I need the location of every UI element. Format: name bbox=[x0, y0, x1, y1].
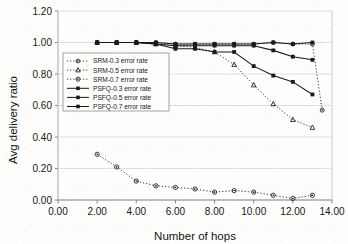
data-point bbox=[193, 47, 197, 51]
legend-label: SRM-0.5 error rate bbox=[93, 67, 148, 74]
x-tick-label: 0.00 bbox=[48, 206, 68, 217]
data-point bbox=[252, 44, 256, 48]
legend-label: PSFQ-0.3 error rate bbox=[93, 85, 152, 93]
data-point-center bbox=[292, 198, 294, 200]
data-point-center bbox=[136, 180, 138, 182]
x-tick-label: 12.00 bbox=[280, 206, 305, 217]
data-point bbox=[76, 105, 80, 109]
data-point-center bbox=[116, 166, 118, 168]
data-point bbox=[115, 41, 119, 45]
data-point bbox=[213, 44, 217, 48]
y-tick-label: 1.00 bbox=[33, 37, 53, 48]
x-tick-label: 4.00 bbox=[127, 206, 147, 217]
legend-label: PSFQ-0.7 error rate bbox=[93, 103, 152, 111]
data-point bbox=[232, 50, 236, 54]
data-point bbox=[174, 47, 178, 51]
x-tick-label: 10.00 bbox=[241, 206, 266, 217]
data-point-center bbox=[322, 110, 323, 111]
data-point bbox=[76, 87, 80, 91]
y-tick-label: 0.00 bbox=[33, 195, 53, 206]
data-point bbox=[271, 48, 275, 52]
y-axis-title: Avg delivery ratio bbox=[7, 76, 19, 164]
data-point bbox=[154, 42, 158, 46]
data-point bbox=[291, 55, 295, 59]
y-tick-label: 0.60 bbox=[33, 100, 53, 111]
data-point bbox=[76, 96, 80, 100]
data-point bbox=[311, 58, 315, 62]
x-tick-label: 14.00 bbox=[319, 206, 344, 217]
data-point-center bbox=[77, 78, 78, 79]
data-point-center bbox=[77, 60, 78, 61]
data-point bbox=[232, 44, 236, 48]
data-point-center bbox=[253, 191, 255, 193]
data-point bbox=[271, 74, 275, 78]
data-point bbox=[311, 93, 315, 97]
legend-label: SRM-0.7 error rate bbox=[93, 76, 148, 83]
legend-label: PSFQ-0.5 error rate bbox=[93, 94, 152, 102]
data-point-center bbox=[233, 190, 235, 192]
y-tick-label: 0.20 bbox=[33, 163, 53, 174]
x-tick-label: 8.00 bbox=[205, 206, 225, 217]
data-point-center bbox=[194, 188, 196, 190]
x-tick-label: 6.00 bbox=[166, 206, 186, 217]
data-point-center bbox=[175, 187, 177, 189]
data-point-center bbox=[155, 185, 157, 187]
x-axis-title: Number of hops bbox=[154, 230, 236, 242]
data-point-center bbox=[96, 154, 98, 156]
data-point bbox=[271, 41, 275, 45]
line-chart: Avg delivery ratio Number of hops 0.000.… bbox=[0, 0, 348, 244]
data-point bbox=[311, 41, 315, 45]
data-point bbox=[252, 64, 256, 68]
data-point-center bbox=[214, 191, 216, 193]
data-point bbox=[95, 41, 99, 45]
chart-figure: Avg delivery ratio Number of hops 0.000.… bbox=[0, 0, 348, 244]
data-point-center bbox=[312, 195, 314, 197]
data-point bbox=[291, 42, 295, 46]
y-tick-label: 1.20 bbox=[33, 6, 53, 17]
data-point bbox=[291, 80, 295, 84]
data-point bbox=[213, 50, 217, 54]
x-tick-label: 2.00 bbox=[87, 206, 107, 217]
chart-legend: SRM-0.3 error rateSRM-0.5 error rateSRM-… bbox=[63, 53, 169, 111]
data-point-center bbox=[273, 195, 275, 197]
y-tick-label: 0.80 bbox=[33, 69, 53, 80]
data-point bbox=[134, 41, 138, 45]
y-tick-label: 0.40 bbox=[33, 132, 53, 143]
legend-label: SRM-0.3 error rate bbox=[93, 57, 148, 64]
